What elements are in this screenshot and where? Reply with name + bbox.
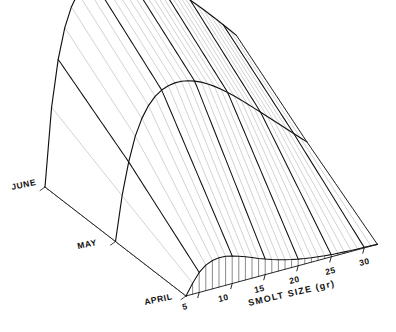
surface-plot-figure: JUNE MAY APRIL 5 10 15 20 25 30 SMOLT SI… <box>0 0 396 332</box>
month-tick-may <box>111 242 116 246</box>
x-tick-30: 30 <box>358 256 370 268</box>
axis-label-april: APRIL <box>143 291 173 307</box>
axis-label-june: JUNE <box>10 177 37 192</box>
x-tick-5: 5 <box>181 301 188 312</box>
x-tick-20: 20 <box>288 274 300 286</box>
month-tick-april <box>181 296 186 300</box>
x-tick-25: 25 <box>324 265 336 277</box>
x-tick-10: 10 <box>217 292 229 304</box>
x-tick-15: 15 <box>253 283 265 295</box>
surface-plot-canvas: JUNE MAY APRIL 5 10 15 20 25 30 SMOLT SI… <box>0 0 396 332</box>
month-tick-june <box>40 187 45 191</box>
axis-label-may: MAY <box>76 237 98 251</box>
